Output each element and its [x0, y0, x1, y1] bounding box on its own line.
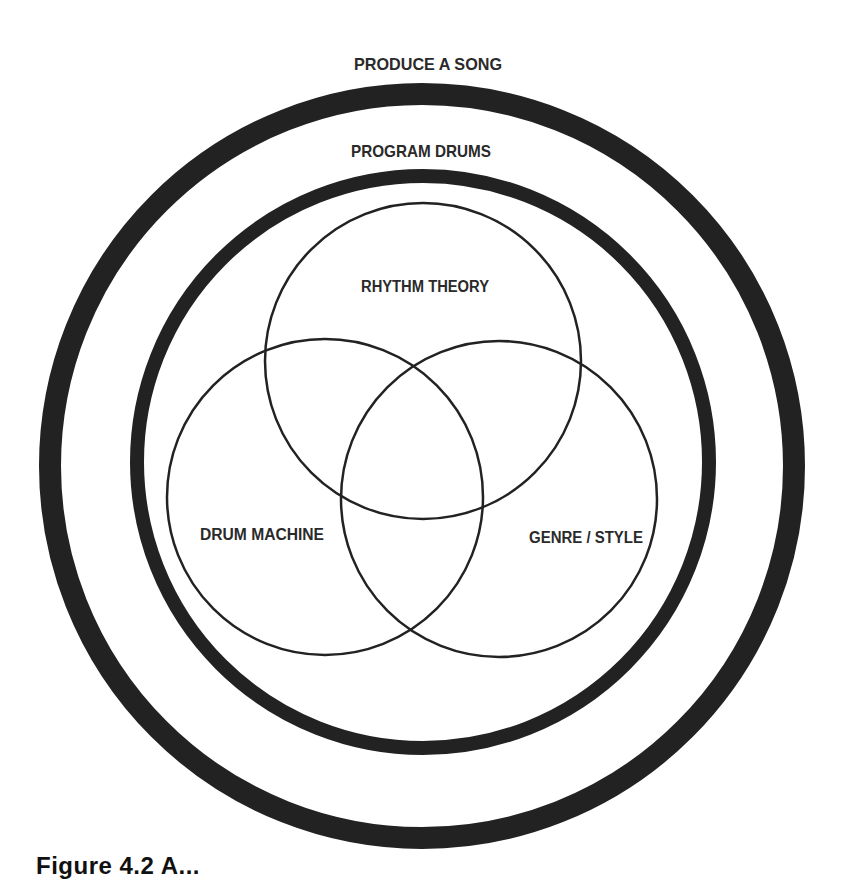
- inner-ring-program-drums: [137, 176, 709, 748]
- outer-ring-produce-a-song: [50, 94, 794, 838]
- venn-label-rhythm-theory: RHYTHM THEORY: [361, 278, 489, 295]
- venn-label-drum-machine: DRUM MACHINE: [200, 526, 324, 543]
- inner-ring-label: PROGRAM DRUMS: [351, 142, 491, 161]
- outer-ring-label: PRODUCE A SONG: [354, 55, 502, 74]
- venn-circle-drum-machine: [167, 339, 483, 655]
- venn-label-genre-style: GENRE / STYLE: [529, 529, 643, 546]
- figure-caption: Figure 4.2 A...: [36, 852, 200, 880]
